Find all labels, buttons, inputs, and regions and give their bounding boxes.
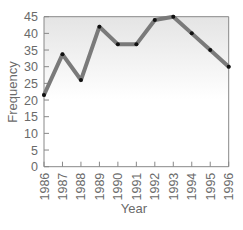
x-tick-label: 1990 [111,173,125,201]
y-tick-label: 35 [24,44,38,58]
data-point-marker [134,42,138,46]
y-tick-label: 10 [24,127,38,141]
data-point-marker [79,78,83,82]
y-tick-label: 20 [24,94,38,108]
x-tick-label: 1995 [204,173,218,201]
data-point-marker [42,93,46,97]
y-tick-label: 15 [24,110,38,124]
y-tick-label: 5 [31,144,38,158]
data-point-marker [227,65,231,69]
data-point-marker [116,42,120,46]
x-tick-label: 1994 [185,173,199,201]
y-axis-title: Frequency [5,61,20,123]
x-tick-label: 1988 [74,173,88,201]
x-axis: 1986198719881989199019911992199319941995… [38,162,237,201]
x-tick-label: 1986 [38,173,52,201]
data-point-marker [97,25,101,29]
y-tick-label: 45 [24,10,38,24]
data-point-marker [60,52,64,56]
x-tick-label: 1993 [167,173,181,201]
data-point-marker [190,31,194,35]
x-tick-label: 1989 [93,173,107,201]
y-tick-label: 25 [24,77,38,91]
y-tick-label: 40 [24,27,38,41]
x-tick-label: 1992 [148,173,162,201]
line-chart: 051015202530354045 198619871988198919901… [0,0,243,230]
data-point-marker [171,15,175,19]
x-tick-label: 1996 [222,173,236,201]
x-tick-label: 1987 [56,173,70,201]
data-point-marker [208,48,212,52]
x-tick-label: 1991 [130,173,144,201]
y-tick-label: 30 [24,60,38,74]
y-tick-label: 0 [31,160,38,174]
data-point-marker [153,18,157,22]
x-axis-title: Year [121,201,148,216]
